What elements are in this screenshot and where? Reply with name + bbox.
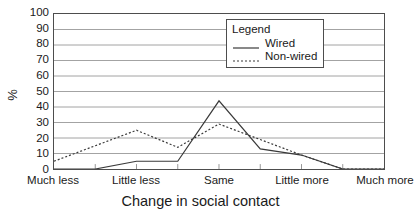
y-tick-label: 50 [23, 86, 49, 98]
plot-svg [54, 14, 384, 169]
y-tick-label: 10 [23, 148, 49, 160]
x-tick-label: Little less [112, 174, 160, 186]
legend-label: Non-wired [265, 50, 317, 63]
x-tick-label: Same [204, 174, 234, 186]
x-tick-label: Little more [275, 174, 329, 186]
solid-line-icon [232, 39, 260, 49]
x-tick-label: Much more [356, 174, 414, 186]
y-tick-label: 30 [23, 117, 49, 129]
gridlines [54, 30, 384, 154]
legend-title: Legend [232, 23, 317, 36]
legend-label: Wired [265, 37, 295, 50]
y-tick-label: 60 [23, 70, 49, 82]
legend-entries: WiredNon-wired [232, 37, 317, 63]
y-tick-label: 40 [23, 101, 49, 113]
legend-box: Legend WiredNon-wired [226, 19, 324, 68]
series-line-wired [54, 101, 384, 169]
series-line-non-wired [54, 124, 384, 169]
x-axis-label: Change in social contact [0, 192, 401, 210]
dotted-line-icon [232, 52, 260, 62]
y-tick-label: 90 [23, 23, 49, 35]
data-series-layer [54, 101, 384, 169]
x-axis-ticks [95, 164, 343, 169]
x-tick-label: Much less [27, 174, 79, 186]
legend-entry: Wired [232, 37, 317, 50]
y-tick-label: 80 [23, 38, 49, 50]
plot-area [53, 13, 385, 170]
y-tick-label: 100 [23, 7, 49, 19]
y-axis-label: % [2, 84, 24, 106]
legend-entry: Non-wired [232, 50, 317, 63]
y-tick-label: 70 [23, 54, 49, 66]
y-tick-label: 20 [23, 133, 49, 145]
